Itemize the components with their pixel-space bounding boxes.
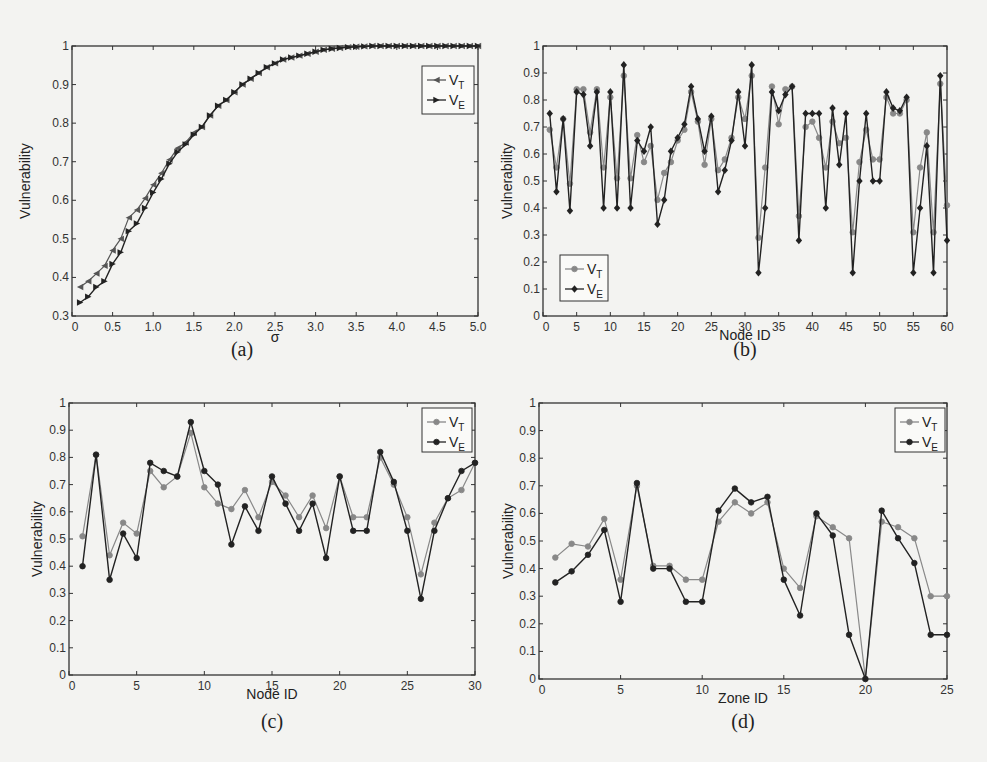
x-tick-label: 30 xyxy=(468,679,482,693)
panel-label: (b) xyxy=(733,338,756,361)
data-point xyxy=(814,511,820,517)
data-point xyxy=(120,520,126,526)
series-line xyxy=(83,433,476,575)
data-point xyxy=(547,110,553,118)
y-tick-label: 1 xyxy=(533,39,540,53)
data-point xyxy=(732,486,738,492)
data-point xyxy=(109,247,115,253)
data-point xyxy=(134,220,140,226)
data-point xyxy=(405,528,411,534)
data-point xyxy=(147,460,153,466)
data-point xyxy=(93,452,99,458)
data-point xyxy=(816,110,822,118)
data-point xyxy=(876,177,882,185)
data-point xyxy=(910,269,916,277)
x-tick-label: 20 xyxy=(859,683,873,697)
data-point xyxy=(756,235,762,241)
x-tick-label: 35 xyxy=(772,320,786,334)
legend-marker xyxy=(434,419,440,425)
y-tick-label: 0.8 xyxy=(519,451,536,465)
data-point xyxy=(937,72,943,80)
y-tick-label: 0 xyxy=(59,668,66,682)
x-tick-label: 15 xyxy=(637,320,651,334)
data-point xyxy=(895,535,901,541)
x-tick-label: 0 xyxy=(69,679,76,693)
data-point xyxy=(895,524,901,530)
data-point xyxy=(283,493,289,499)
data-point xyxy=(77,284,83,290)
y-tick-label: 0.7 xyxy=(519,479,536,493)
x-tick-label: 40 xyxy=(806,320,820,334)
x-tick-label: 3.5 xyxy=(348,320,365,334)
y-tick-label: 0.6 xyxy=(52,193,69,207)
data-point xyxy=(762,204,768,212)
data-point xyxy=(650,566,656,572)
data-point xyxy=(310,493,316,499)
data-point xyxy=(188,419,194,425)
data-point xyxy=(802,110,808,118)
x-tick-label: 20 xyxy=(671,320,685,334)
data-point xyxy=(742,142,748,150)
data-point xyxy=(699,577,705,583)
panel-label: (a) xyxy=(231,338,253,361)
data-point xyxy=(755,269,761,277)
data-point xyxy=(944,237,950,245)
y-tick-label: 0.7 xyxy=(49,478,66,492)
y-tick-label: 0.9 xyxy=(519,424,536,438)
x-axis-label: Zone ID xyxy=(718,690,768,706)
y-tick-label: 0.9 xyxy=(523,66,540,80)
y-tick-label: 0.5 xyxy=(49,532,66,546)
x-tick-label: 5 xyxy=(617,683,624,697)
x-tick-label: 10 xyxy=(696,683,710,697)
x-tick-label: 10 xyxy=(198,679,212,693)
data-point xyxy=(459,487,465,493)
data-point xyxy=(607,88,613,96)
y-axis-label: Vulnerability xyxy=(499,143,515,219)
data-point xyxy=(134,555,140,561)
series-v-e xyxy=(77,43,481,306)
data-point xyxy=(661,170,667,176)
x-axis-label: Node ID xyxy=(246,686,297,702)
data-point xyxy=(912,560,918,566)
y-tick-label: 0.3 xyxy=(519,589,536,603)
data-point xyxy=(323,555,329,561)
x-tick-label: 45 xyxy=(839,320,853,334)
y-tick-label: 0.4 xyxy=(52,270,69,284)
data-point xyxy=(242,504,248,510)
plot-frame xyxy=(69,403,475,675)
data-point xyxy=(418,596,424,602)
data-point xyxy=(601,516,607,522)
data-point xyxy=(158,176,164,182)
data-point xyxy=(830,533,836,539)
data-point xyxy=(928,593,934,599)
data-point xyxy=(569,541,575,547)
y-tick-label: 0.8 xyxy=(523,93,540,107)
data-point xyxy=(621,61,627,69)
data-point xyxy=(917,165,923,171)
x-tick-label: 25 xyxy=(401,679,415,693)
data-point xyxy=(350,528,356,534)
x-tick-label: 4.5 xyxy=(429,320,446,334)
y-tick-label: 0.4 xyxy=(49,559,66,573)
data-point xyxy=(150,189,156,195)
data-point xyxy=(912,535,918,541)
x-tick-label: 2.0 xyxy=(226,320,243,334)
x-tick-label: 50 xyxy=(873,320,887,334)
legend-marker xyxy=(572,266,578,272)
data-point xyxy=(648,123,654,131)
data-point xyxy=(472,460,478,466)
legend: VTVE xyxy=(560,255,608,301)
data-point xyxy=(776,122,782,128)
y-tick-label: 0 xyxy=(533,309,540,323)
y-tick-label: 0.3 xyxy=(523,228,540,242)
data-point xyxy=(661,196,667,204)
data-point xyxy=(142,205,148,211)
data-point xyxy=(80,563,86,569)
data-point xyxy=(863,676,869,682)
y-tick-label: 0.4 xyxy=(523,201,540,215)
data-point xyxy=(242,487,248,493)
y-tick-label: 0.9 xyxy=(52,78,69,92)
data-point xyxy=(732,500,738,506)
data-point xyxy=(641,159,647,165)
data-point xyxy=(846,632,852,638)
